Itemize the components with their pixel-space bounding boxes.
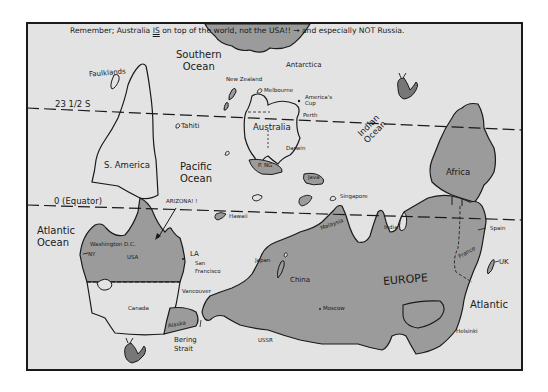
uk-label: UK — [499, 259, 509, 266]
india-label: India — [384, 225, 398, 231]
atlantic-ocean-label: AtlanticOcean — [37, 226, 75, 248]
ny-label: NY — [88, 252, 95, 258]
new-zealand-label: New Zealand — [226, 77, 262, 83]
map-title: Remember; Australia IS on top of the wor… — [70, 27, 404, 35]
washington-label: Washington D.C. — [90, 242, 136, 248]
arizona-label: ARIZONA! ! — [166, 199, 197, 205]
usa-label: USA — [127, 255, 138, 261]
equator-label: 0 (Equator) — [54, 197, 102, 206]
spain-label: Spain — [490, 226, 505, 232]
helsinki-label: Helsinki — [456, 329, 478, 335]
australia-label: Australia — [253, 123, 291, 132]
singapore-label: Singapore — [340, 194, 368, 200]
americas-cup-label: America'sCup — [305, 95, 332, 106]
title-emphasis: IS — [153, 26, 160, 35]
vancouver-label: Vancouver — [182, 289, 211, 295]
melbourne-label: Melbourne — [264, 88, 293, 94]
canada-label: Canada — [128, 306, 149, 312]
tahiti-label: Tahiti — [181, 123, 199, 130]
africa-label: Africa — [446, 168, 470, 177]
title-post: on top of the world, not the USA!! → and… — [160, 26, 405, 35]
san-francisco-label: SanFrancisco — [195, 261, 221, 274]
darwin-label: Darwin — [286, 146, 305, 152]
japan-label: Japan — [255, 258, 270, 264]
atlantic-east-label: Atlantic — [470, 300, 508, 310]
perth-label: Perth — [303, 113, 317, 119]
moscow-label: Moscow — [323, 306, 345, 312]
antarctica-label: Antarctica — [286, 62, 322, 69]
s-america-label: S. America — [104, 161, 150, 170]
title-pre: Remember; Australia — [70, 26, 153, 35]
southern-ocean-label: SouthernOcean — [176, 50, 222, 72]
pacific-ocean-label: PacificOcean — [180, 162, 212, 184]
la-label: LA — [190, 251, 199, 258]
png-label: P. NG — [258, 163, 272, 169]
ussr-label: USSR — [258, 338, 273, 344]
bering-strait-label: BeringStrait — [174, 337, 197, 353]
hawaii-label: Hawaii — [229, 214, 247, 220]
tropic-label: 23 1/2 S — [55, 100, 90, 109]
china-label: China — [290, 277, 310, 284]
java-label: Java — [308, 175, 320, 181]
